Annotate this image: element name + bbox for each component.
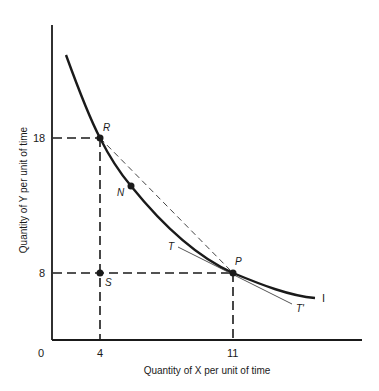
y-axis-title: Quantity of Y per unit of time xyxy=(18,126,29,253)
label-n: N xyxy=(117,187,125,198)
y-tick-18: 18 xyxy=(33,132,45,144)
indifference-curve-chart: R N P S T T' I 18 8 0 4 11 Quantity of X… xyxy=(0,0,379,391)
label-r: R xyxy=(103,122,110,133)
point-r xyxy=(97,135,104,142)
x-axis-title: Quantity of X per unit of time xyxy=(144,365,271,376)
label-t-prime: T' xyxy=(296,303,305,314)
label-s: S xyxy=(105,277,112,288)
y-tick-8: 8 xyxy=(39,267,45,279)
origin-label: 0 xyxy=(38,347,44,359)
x-tick-11: 11 xyxy=(227,347,238,359)
point-s xyxy=(97,270,104,277)
chord-rp xyxy=(100,138,233,273)
point-n xyxy=(128,183,135,190)
label-t: T xyxy=(168,241,175,252)
label-p: P xyxy=(235,256,242,267)
indifference-curve xyxy=(66,55,315,298)
x-tick-4: 4 xyxy=(97,347,103,359)
label-curve-i: I xyxy=(322,292,325,304)
point-p xyxy=(230,270,237,277)
guide-lines xyxy=(53,138,233,340)
